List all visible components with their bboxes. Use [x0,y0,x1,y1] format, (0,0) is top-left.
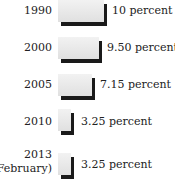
value-label: 3.25 percent [81,158,152,171]
bar-row-2010: 2010 3.25 percent [0,111,175,141]
year-label: 2010 [24,115,52,128]
year-label: 1990 [24,4,52,17]
value-label: 10 percent [112,4,172,17]
value-label: 9.50 percent [107,41,175,54]
bar [58,0,104,22]
bar-row-2005: 2005 7.15 percent [0,74,175,104]
bar-row-1990: 1990 10 percent [0,0,175,30]
year-label: 2005 [24,78,52,91]
bar [58,74,92,96]
bar-row-2013: 2013 (February) 3.25 percent [0,148,175,188]
year-label: 2000 [24,41,52,54]
year-label: 2013 [24,148,52,161]
value-label: 3.25 percent [81,115,152,128]
bar [58,153,71,175]
year-sublabel: (February) [0,162,52,175]
bar [58,109,71,131]
bar-row-2000: 2000 9.50 percent [0,37,175,67]
bar [58,37,99,59]
value-label: 7.15 percent [100,78,171,91]
